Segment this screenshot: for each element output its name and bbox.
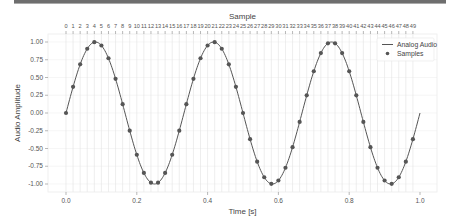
sample-point xyxy=(92,40,96,44)
top-tick-label: 36 xyxy=(318,23,324,29)
legend-marker-icon xyxy=(386,52,390,56)
chart: 1.000.750.500.250.00-0.25-0.50-0.75-1.00… xyxy=(0,0,453,223)
top-tick-label: 33 xyxy=(297,23,303,29)
top-tick-label: 9 xyxy=(128,23,131,29)
y-axis: 1.000.750.500.250.00-0.25-0.50-0.75-1.00 xyxy=(28,38,48,187)
top-tick-label: 46 xyxy=(389,23,395,29)
x-tick-label: 1.0 xyxy=(415,197,424,204)
sample-point xyxy=(85,47,89,51)
top-tick-label: 47 xyxy=(396,23,402,29)
top-tick-label: 42 xyxy=(360,23,366,29)
sample-point xyxy=(184,102,188,106)
sample-point xyxy=(390,182,394,186)
sample-point xyxy=(347,69,351,73)
top-tick-label: 48 xyxy=(403,23,409,29)
sample-point xyxy=(220,47,224,51)
top-tick-label: 2 xyxy=(79,23,82,29)
sample-point xyxy=(198,56,202,60)
sample-point xyxy=(283,166,287,170)
top-tick-label: 22 xyxy=(219,23,225,29)
top-tick-label: 19 xyxy=(197,23,203,29)
top-tick-label: 7 xyxy=(114,23,117,29)
y-tick-label: 1.00 xyxy=(30,38,43,45)
top-tick-label: 4 xyxy=(93,23,96,29)
x-tick-label: 0.4 xyxy=(203,197,212,204)
sample-point xyxy=(276,178,280,182)
top-tick-label: 35 xyxy=(311,23,317,29)
sample-point xyxy=(298,120,302,124)
top-tick-label: 20 xyxy=(204,23,210,29)
sample-point xyxy=(163,171,167,175)
top-tick-label: 28 xyxy=(261,23,267,29)
sample-point xyxy=(255,160,259,164)
sample-point xyxy=(78,62,82,66)
y-tick-label: -0.75 xyxy=(28,162,43,169)
y-tick-label: -0.50 xyxy=(28,145,43,152)
top-tick-label: 32 xyxy=(289,23,295,29)
top-tick-label: 17 xyxy=(183,23,189,29)
sample-point xyxy=(262,175,266,179)
sample-point xyxy=(149,181,153,185)
legend-label-analog-audio: Analog Audio xyxy=(397,41,437,49)
top-tick-label: 41 xyxy=(353,23,359,29)
sample-point xyxy=(99,43,103,47)
sample-point xyxy=(191,77,195,81)
y-tick-label: 0.50 xyxy=(30,74,43,81)
top-tick-label: 29 xyxy=(268,23,274,29)
sample-point xyxy=(312,69,316,73)
top-tick-label: 12 xyxy=(148,23,154,29)
top-sample-axis: 0123456789101112131415161718192021222324… xyxy=(64,23,416,34)
sample-point xyxy=(177,129,181,133)
top-tick-label: 6 xyxy=(107,23,110,29)
y-axis-label: Audio Amplitude xyxy=(13,84,22,142)
sample-point xyxy=(340,51,344,55)
top-tick-label: 31 xyxy=(282,23,288,29)
sample-point xyxy=(71,85,75,89)
x-tick-label: 0.2 xyxy=(132,197,141,204)
x-tick-label: 0.8 xyxy=(345,197,354,204)
sample-point xyxy=(383,178,387,182)
top-axis-label: Sample xyxy=(229,12,257,21)
top-tick-label: 8 xyxy=(121,23,124,29)
x-tick-label: 0.0 xyxy=(61,197,70,204)
sample-point xyxy=(213,40,217,44)
sample-point xyxy=(248,137,252,141)
top-tick-label: 15 xyxy=(169,23,175,29)
top-tick-label: 39 xyxy=(339,23,345,29)
top-tick-label: 10 xyxy=(134,23,140,29)
sample-point xyxy=(142,171,146,175)
sample-point xyxy=(156,181,160,185)
sample-point xyxy=(404,160,408,164)
sample-point xyxy=(234,85,238,89)
sample-point xyxy=(64,111,68,115)
y-tick-label: 0.25 xyxy=(30,91,43,98)
sample-point xyxy=(206,43,210,47)
top-tick-label: 23 xyxy=(226,23,232,29)
top-tick-label: 30 xyxy=(275,23,281,29)
sample-point xyxy=(241,111,245,115)
top-tick-label: 38 xyxy=(332,23,338,29)
sample-point xyxy=(397,175,401,179)
sample-point xyxy=(290,145,294,149)
legend: Analog Audio Samples xyxy=(377,38,437,61)
sample-point xyxy=(106,56,110,60)
sample-point xyxy=(305,93,309,97)
sample-point xyxy=(113,77,117,81)
legend-label-samples: Samples xyxy=(397,50,424,58)
y-tick-label: -0.25 xyxy=(28,127,43,134)
y-tick-label: 0.00 xyxy=(30,109,43,116)
x-axis-label: Time [s] xyxy=(228,207,256,216)
sample-point xyxy=(319,51,323,55)
sample-point xyxy=(121,102,125,106)
top-tick-label: 21 xyxy=(212,23,218,29)
top-tick-label: 5 xyxy=(100,23,103,29)
sample-point xyxy=(361,120,365,124)
x-axis: 0.00.20.40.60.81.0 xyxy=(61,192,424,204)
y-tick-label: -1.00 xyxy=(28,180,43,187)
sample-point xyxy=(375,166,379,170)
sample-point xyxy=(333,41,337,45)
y-tick-label: 0.75 xyxy=(30,56,43,63)
top-tick-label: 1 xyxy=(72,23,75,29)
top-tick-label: 0 xyxy=(64,23,67,29)
sample-point xyxy=(128,129,132,133)
